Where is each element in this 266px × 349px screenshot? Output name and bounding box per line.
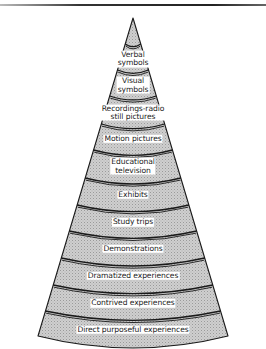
band-label-study-trips: Study trips <box>112 218 154 226</box>
band-label-demonstrations: Demonstrations <box>102 244 163 252</box>
band-label-visual-symbols: Visualsymbols <box>117 77 150 94</box>
band-label-recordings-radio-still-pictures: Recordings-radiostill pictures <box>101 104 165 121</box>
band-label-exhibits: Exhibits <box>117 191 148 199</box>
band-label-dramatized-experiences: Dramatized experiences <box>87 272 180 280</box>
band-label-verbal-symbols: Verbalsymbols <box>117 50 150 67</box>
band-label-contrived-experiences: Contrived experiences <box>90 299 175 307</box>
band-label-educational-television: Educationaltelevision <box>110 158 155 175</box>
band-label-motion-pictures: Motion pictures <box>103 135 162 143</box>
band-label-direct-purposeful-experiences: Direct purposeful experiences <box>76 326 189 334</box>
